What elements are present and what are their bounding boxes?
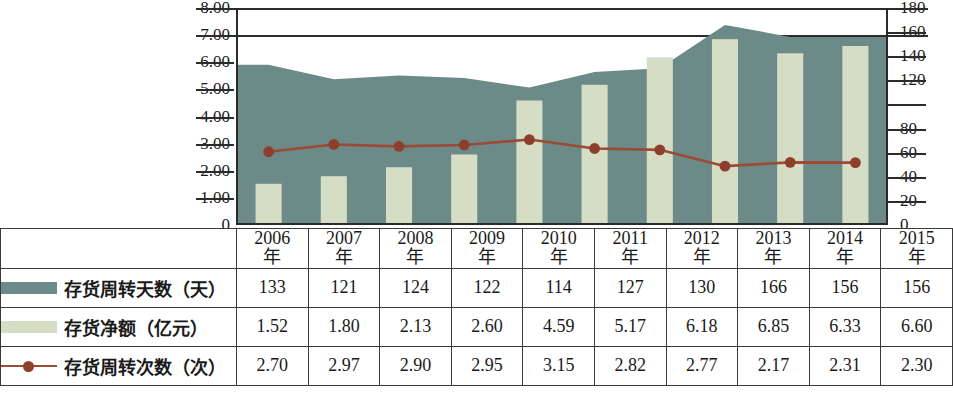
table-header-year: 2015年	[881, 229, 953, 269]
year-number: 2009	[452, 229, 523, 248]
table-row: 存货净额（亿元）1.521.802.132.604.595.176.186.85…	[1, 307, 953, 346]
table-cell: 1.52	[237, 307, 309, 346]
table-header-year: 2008年	[380, 229, 452, 269]
year-number: 2006	[237, 229, 308, 248]
table-cell: 156	[809, 268, 881, 307]
year-number: 2013	[738, 229, 809, 248]
year-suffix: 年	[309, 248, 380, 267]
legend-label: 存货净额（亿元）	[64, 314, 208, 340]
y-axis-left-line	[236, 8, 238, 225]
line-marker	[328, 139, 339, 150]
year-number: 2007	[309, 229, 380, 248]
right-axis-tick-mark	[888, 32, 926, 34]
year-suffix: 年	[380, 248, 451, 267]
legend-swatch-bar	[1, 321, 57, 333]
table-cell: 121	[308, 268, 380, 307]
table-cell: 1.80	[308, 307, 380, 346]
table-header-year: 2010年	[523, 229, 595, 269]
left-axis-tick-mark	[196, 117, 234, 119]
plot-area	[236, 8, 888, 225]
table-cell: 2.60	[451, 307, 523, 346]
table-cell: 127	[594, 268, 666, 307]
legend-row: 存货周转天数（天）	[1, 268, 237, 307]
table-cell: 133	[237, 268, 309, 307]
table-cell: 2.95	[451, 346, 523, 385]
chart-canvas	[236, 8, 888, 225]
table-cell: 2.30	[881, 346, 953, 385]
table-cell: 2.17	[738, 346, 810, 385]
line-marker	[785, 157, 796, 168]
year-number: 2010	[523, 229, 594, 248]
table-cell: 6.85	[738, 307, 810, 346]
table-cell: 2.97	[308, 346, 380, 385]
chart-region: 8.007.006.005.004.003.002.001.000 180160…	[0, 0, 952, 228]
right-axis-tick-mark	[888, 177, 926, 179]
table-cell: 6.18	[666, 307, 738, 346]
table-cell: 2.13	[380, 307, 452, 346]
table-cell: 2.70	[237, 346, 309, 385]
right-axis-tick-mark	[888, 80, 926, 82]
table-cell: 156	[881, 268, 953, 307]
year-number: 2011	[595, 229, 666, 248]
year-suffix: 年	[595, 248, 666, 267]
line-marker	[720, 161, 731, 172]
right-axis-tick-mark	[888, 129, 926, 131]
legend-swatch-area	[1, 282, 57, 294]
bar-inventory-net-amount	[321, 176, 347, 225]
left-axis-tick-mark	[196, 144, 234, 146]
table-header-year: 2014年	[809, 229, 881, 269]
table-row: 存货周转次数（次）2.702.972.902.953.152.822.772.1…	[1, 346, 953, 385]
year-number: 2015	[881, 229, 952, 248]
year-suffix: 年	[452, 248, 523, 267]
legend-label: 存货周转次数（次）	[64, 353, 226, 379]
line-marker	[459, 140, 470, 151]
right-axis-tick-mark	[888, 153, 926, 155]
legend-label: 存货周转天数（天）	[64, 275, 226, 301]
right-axis-tick-mark	[888, 8, 926, 10]
x-axis-line	[236, 223, 888, 225]
table-cell: 2.77	[666, 346, 738, 385]
table-cell: 5.17	[594, 307, 666, 346]
line-marker	[654, 144, 665, 155]
bar-inventory-net-amount	[451, 154, 477, 225]
table-cell: 114	[523, 268, 595, 307]
table-cell: 6.60	[881, 307, 953, 346]
data-table: 2006年2007年2008年2009年2010年2011年2012年2013年…	[0, 228, 953, 386]
year-suffix: 年	[667, 248, 738, 267]
table-cell: 122	[451, 268, 523, 307]
year-number: 2012	[667, 229, 738, 248]
right-axis-tick-mark	[888, 201, 926, 203]
table-cell: 166	[738, 268, 810, 307]
line-marker	[850, 157, 861, 168]
year-suffix: 年	[810, 248, 881, 267]
year-suffix: 年	[523, 248, 594, 267]
left-axis-tick-mark	[196, 171, 234, 173]
table-cell: 6.33	[809, 307, 881, 346]
table-header-year: 2006年	[237, 229, 309, 269]
right-axis-tick-mark	[888, 56, 926, 58]
right-axis-tick-mark	[888, 104, 926, 106]
line-marker	[589, 143, 600, 154]
legend-row: 存货周转次数（次）	[1, 346, 237, 385]
table-cell: 3.15	[523, 346, 595, 385]
table-cell: 130	[666, 268, 738, 307]
year-suffix: 年	[881, 248, 952, 267]
legend-row: 存货净额（亿元）	[1, 307, 237, 346]
bar-inventory-net-amount	[582, 85, 608, 225]
bar-inventory-net-amount	[647, 57, 673, 225]
bar-inventory-net-amount	[516, 101, 542, 226]
bar-inventory-net-amount	[386, 167, 412, 225]
table-cell: 2.90	[380, 346, 452, 385]
year-number: 2014	[810, 229, 881, 248]
year-suffix: 年	[738, 248, 809, 267]
line-marker	[394, 141, 405, 152]
year-suffix: 年	[237, 248, 308, 267]
table-header-year: 2013年	[738, 229, 810, 269]
table-row: 存货周转天数（天）133121124122114127130166156156	[1, 268, 953, 307]
table-corner-blank	[1, 229, 237, 269]
table-header-year: 2012年	[666, 229, 738, 269]
table-cell: 2.31	[809, 346, 881, 385]
legend-swatch-line	[1, 360, 57, 372]
table-cell: 124	[380, 268, 452, 307]
